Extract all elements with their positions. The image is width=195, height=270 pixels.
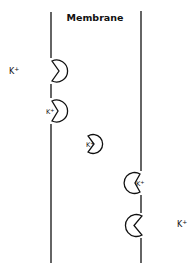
membrane-transport-diagram: Membrane K+ K+ K+ K+ K+ <box>0 0 195 270</box>
ion-label-bound: K+ <box>136 179 144 188</box>
ion-label-inside: K+ <box>177 218 187 229</box>
ion-label-outside: K+ <box>9 65 19 76</box>
membrane-title: Membrane <box>67 12 124 23</box>
carrier-empty-icon <box>52 60 68 82</box>
ion-label-bound: K+ <box>46 107 54 116</box>
carrier-empty-icon <box>125 215 142 237</box>
